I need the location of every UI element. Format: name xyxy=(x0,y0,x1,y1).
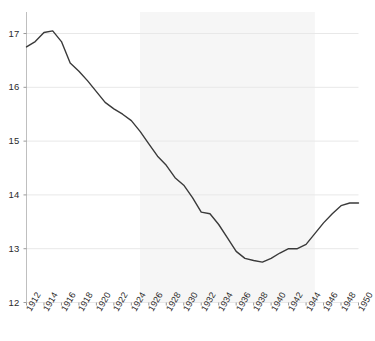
y-tick-label-15: 15 xyxy=(2,135,20,146)
shaded-period-band xyxy=(140,12,315,303)
y-tick-label-13: 13 xyxy=(2,243,20,254)
y-tick-label-14: 14 xyxy=(2,189,20,200)
y-tick-label-17: 17 xyxy=(2,28,20,39)
y-tick-label-12: 12 xyxy=(2,297,20,308)
y-tick-label-16: 16 xyxy=(2,81,20,92)
